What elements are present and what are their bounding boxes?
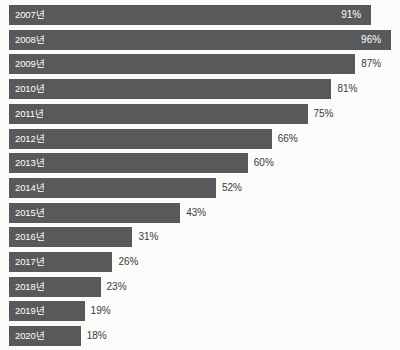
bar-value-label: 43% (186, 208, 206, 218)
bar-value-label: 31% (138, 232, 158, 242)
bar: 2011년 (9, 104, 308, 124)
bar-category-label: 2017년 (15, 257, 45, 267)
bar-category-label: 2010년 (15, 84, 45, 94)
bar: 2010년 (9, 79, 331, 99)
bar: 2007년 (9, 5, 371, 25)
bar-category-label: 2018년 (15, 282, 45, 292)
bar-value-label: 87% (361, 59, 381, 69)
bar-category-label: 2015년 (15, 208, 45, 218)
bar-row: 2019년19% (0, 301, 400, 321)
bar-value-label: 52% (222, 183, 242, 193)
bar-value-label: 23% (107, 282, 127, 292)
bar-category-label: 2016년 (15, 233, 45, 243)
bar-chart: 2007년91%2008년96%2009년87%2010년81%2011년75%… (0, 0, 400, 350)
bar-value-label: 19% (91, 306, 111, 316)
bar-value-label: 91% (341, 10, 361, 20)
bar: 2020년 (9, 326, 81, 346)
bar: 2013년 (9, 153, 248, 173)
bar-row: 2015년43% (0, 203, 400, 223)
bar-row: 2017년26% (0, 252, 400, 272)
bar-row: 2008년96% (0, 30, 400, 50)
bar: 2016년 (9, 227, 132, 247)
bar: 2015년 (9, 203, 180, 223)
bar: 2014년 (9, 178, 216, 198)
bar-value-label: 66% (278, 134, 298, 144)
bar-category-label: 2014년 (15, 183, 45, 193)
bar-category-label: 2013년 (15, 158, 45, 168)
bar-value-label: 81% (337, 84, 357, 94)
bar-value-label: 60% (254, 158, 274, 168)
bar: 2017년 (9, 252, 112, 272)
bar: 2009년 (9, 54, 355, 74)
bar-row: 2020년18% (0, 326, 400, 346)
bar-category-label: 2011년 (15, 109, 44, 119)
bar-value-label: 26% (118, 257, 138, 267)
bar-row: 2018년23% (0, 277, 400, 297)
bar-category-label: 2009년 (15, 60, 45, 70)
bar-row: 2014년52% (0, 178, 400, 198)
bar-category-label: 2012년 (15, 134, 45, 144)
bar-row: 2016년31% (0, 227, 400, 247)
bar-row: 2007년91% (0, 5, 400, 25)
bar-value-label: 75% (314, 109, 334, 119)
bar: 2012년 (9, 129, 272, 149)
bar: 2019년 (9, 301, 85, 321)
bar-row: 2011년75% (0, 104, 400, 124)
chart-plot-area: 2007년91%2008년96%2009년87%2010년81%2011년75%… (0, 0, 400, 350)
bar-row: 2013년60% (0, 153, 400, 173)
bar-row: 2009년87% (0, 54, 400, 74)
bar-category-label: 2019년 (15, 307, 45, 317)
bar-category-label: 2007년 (15, 10, 45, 20)
bar-row: 2010년81% (0, 79, 400, 99)
bar: 2018년 (9, 277, 101, 297)
bar-category-label: 2008년 (15, 35, 45, 45)
bar: 2008년 (9, 30, 391, 50)
bar-value-label: 18% (87, 331, 107, 341)
bar-category-label: 2020년 (15, 331, 45, 341)
bar-row: 2012년66% (0, 129, 400, 149)
bar-value-label: 96% (361, 35, 381, 45)
